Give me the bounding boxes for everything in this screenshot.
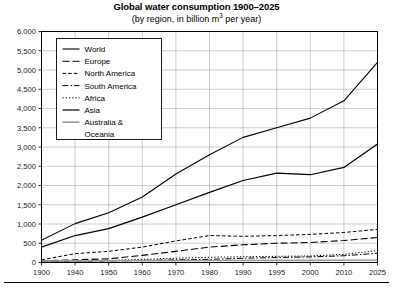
x-axis-tick-label: 2000 <box>302 268 319 277</box>
x-axis-tick-label: 2010 <box>335 268 352 277</box>
y-axis-tick-label: 6,000 <box>17 27 36 36</box>
legend-label: Europe <box>85 57 111 66</box>
legend-label: South America <box>85 82 138 91</box>
legend-label: World <box>85 45 106 54</box>
y-axis-tick-label: 1,000 <box>17 220 36 229</box>
series-line-australia-oceania <box>42 260 378 261</box>
legend-label: Asia <box>85 106 101 115</box>
y-axis-tick-label: 4,000 <box>17 104 36 113</box>
x-axis-tick-label: 1900 <box>33 268 50 277</box>
y-axis-tick-label: 2,500 <box>17 162 36 171</box>
x-axis-tick-label: 1960 <box>134 268 151 277</box>
legend-label: Oceania <box>85 130 115 139</box>
y-axis-tick-label: 4,500 <box>17 85 36 94</box>
chart-legend: WorldEuropeNorth AmericaSouth AmericaAfr… <box>57 39 162 140</box>
y-axis-tick-label: 5,000 <box>17 66 36 75</box>
y-axis-tick-label: 0 <box>32 258 36 267</box>
x-axis-tick-label: 1970 <box>167 268 184 277</box>
y-axis-tick-label: 2,000 <box>17 181 36 190</box>
x-axis-tick-label: 1995 <box>268 268 285 277</box>
y-axis-tick-label: 3,500 <box>17 124 36 133</box>
x-axis-tick-labels: 1900194019501960197019801990199520002010… <box>33 268 386 277</box>
x-axis-tick-label: 1980 <box>201 268 218 277</box>
y-axis-tick-label: 500 <box>23 239 36 248</box>
legend-label: Australia & <box>85 118 124 127</box>
x-axis-tick-label: 1940 <box>67 268 84 277</box>
legend-label: Africa <box>85 94 106 103</box>
chart-plot-area: 05001,0001,5002,0002,5003,0003,5004,0004… <box>0 0 393 290</box>
x-axis-tick-label: 1990 <box>235 268 252 277</box>
y-axis-tick-label: 3,000 <box>17 143 36 152</box>
legend-label: North America <box>85 69 136 78</box>
x-axis-tick-label: 1950 <box>100 268 117 277</box>
y-axis-tick-label: 5,500 <box>17 47 36 56</box>
y-axis-tick-label: 1,500 <box>17 201 36 210</box>
y-axis-tick-labels: 05001,0001,5002,0002,5003,0003,5004,0004… <box>17 27 36 267</box>
x-axis-tick-label: 2025 <box>369 268 386 277</box>
chart-container: Global water consumption 1900–2025 (by r… <box>0 0 393 290</box>
